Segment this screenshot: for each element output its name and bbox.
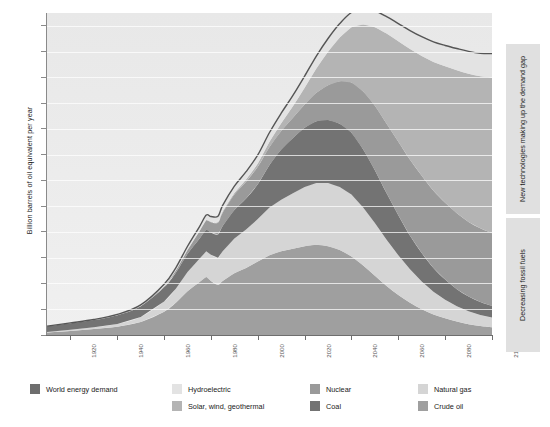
legend-item[interactable]: Nuclear [310, 384, 351, 394]
gridline [47, 309, 492, 310]
legend-swatch-icon [418, 384, 428, 394]
annotation-new-technologies: New technologies making up the demand ga… [506, 44, 540, 214]
x-tick-label: 2080 [465, 344, 472, 382]
gridline [47, 283, 492, 284]
x-tick-mark [445, 335, 446, 340]
chart-legend: World energy demandHydroelectricSolar, w… [0, 378, 550, 427]
y-tick-mark [41, 283, 46, 284]
annotation-decreasing-fossil-fuels-label: Decreasing fossil fuels [518, 249, 528, 321]
legend-item[interactable]: World energy demand [30, 384, 118, 394]
legend-label: Crude oil [434, 402, 463, 411]
legend-swatch-icon [172, 384, 182, 394]
x-tick-label: 1920 [90, 344, 97, 382]
legend-item[interactable]: Coal [310, 401, 341, 411]
energy-demand-area-chart: Billion barrels of oil equivalent per ye… [0, 0, 550, 427]
x-tick-label: 2020 [325, 344, 332, 382]
legend-swatch-icon [310, 401, 320, 411]
x-tick-mark [351, 335, 352, 340]
legend-swatch-icon [30, 384, 40, 394]
x-tick-label: 1960 [184, 344, 191, 382]
legend-label: Solar, wind, geothermal [188, 402, 264, 411]
y-tick-mark [41, 231, 46, 232]
legend-label: Nuclear [326, 385, 351, 394]
x-tick-mark [398, 335, 399, 340]
legend-swatch-icon [418, 401, 428, 411]
gridline [47, 26, 492, 27]
legend-item[interactable]: Hydroelectric [172, 384, 231, 394]
x-tick-label: 1980 [231, 344, 238, 382]
y-tick-mark [41, 257, 46, 258]
legend-item[interactable]: Natural gas [418, 384, 471, 394]
gridline [47, 258, 492, 259]
x-tick-mark [305, 335, 306, 340]
gridline [47, 77, 492, 78]
y-tick-mark [41, 103, 46, 104]
y-tick-mark [41, 128, 46, 129]
gridline [47, 155, 492, 156]
legend-item[interactable]: Crude oil [418, 401, 463, 411]
annotation-new-technologies-label: New technologies making up the demand ga… [518, 56, 528, 202]
legend-item[interactable]: Solar, wind, geothermal [172, 401, 264, 411]
legend-label: Hydroelectric [188, 385, 231, 394]
y-tick-mark [41, 25, 46, 26]
y-tick-mark [41, 206, 46, 207]
y-tick-mark [41, 154, 46, 155]
y-axis-title: Billion barrels of oil equivalent per ye… [25, 46, 34, 296]
legend-label: Coal [326, 402, 341, 411]
x-tick-label: 1940 [137, 344, 144, 382]
x-tick-mark [211, 335, 212, 340]
legend-label: Natural gas [434, 385, 471, 394]
x-tick-mark [258, 335, 259, 340]
legend-swatch-icon [172, 401, 182, 411]
legend-label: World energy demand [46, 385, 118, 394]
x-tick-mark [117, 335, 118, 340]
x-tick-label: 2000 [278, 344, 285, 382]
gridline [47, 103, 492, 104]
y-tick-mark [41, 51, 46, 52]
y-tick-mark [41, 77, 46, 78]
y-tick-mark [41, 180, 46, 181]
stacked-area-series [47, 13, 492, 335]
plot-area [47, 13, 492, 335]
x-tick-label: 2060 [418, 344, 425, 382]
x-tick-mark [164, 335, 165, 340]
gridline [47, 52, 492, 53]
gridline [47, 206, 492, 207]
x-tick-mark [70, 335, 71, 340]
gridline [47, 180, 492, 181]
y-tick-mark [41, 335, 46, 336]
gridline [47, 129, 492, 130]
legend-swatch-icon [310, 384, 320, 394]
y-tick-mark [41, 309, 46, 310]
x-tick-label: 2040 [371, 344, 378, 382]
annotation-decreasing-fossil-fuels: Decreasing fossil fuels [506, 218, 540, 352]
gridline [47, 232, 492, 233]
x-axis-line [46, 335, 493, 336]
x-tick-mark [492, 335, 493, 340]
